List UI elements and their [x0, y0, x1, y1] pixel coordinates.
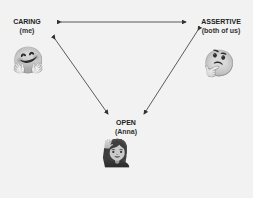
node-caring-label: CARING — [12, 17, 42, 26]
node-open: OPEN (Anna) — [106, 118, 146, 136]
woman-raising-hand-icon: 🙋‍♀️ — [101, 138, 133, 168]
arrow-caring-open — [55, 39, 108, 114]
thinking-face-icon: 🤔 — [203, 48, 235, 78]
node-caring-sub: (me) — [12, 26, 42, 35]
node-assertive: ASSERTIVE (both of us) — [196, 17, 246, 35]
node-open-label: OPEN — [106, 118, 146, 127]
hugging-face-icon: 🤗 — [12, 45, 44, 75]
node-open-sub: (Anna) — [106, 127, 146, 136]
node-assertive-sub: (both of us) — [196, 26, 246, 35]
node-assertive-label: ASSERTIVE — [196, 17, 246, 26]
node-caring: CARING (me) — [12, 17, 42, 35]
arrow-assertive-open — [144, 30, 198, 114]
